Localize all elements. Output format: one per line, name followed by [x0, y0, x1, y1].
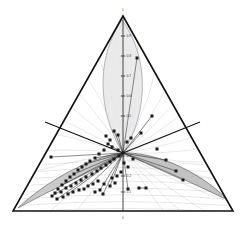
axis-tick-label: 0.7 [126, 74, 131, 78]
data-point[interactable] [65, 187, 68, 190]
data-point[interactable] [182, 179, 185, 182]
data-point[interactable] [109, 161, 112, 164]
data-point[interactable] [151, 115, 154, 118]
data-point[interactable] [117, 134, 120, 137]
data-point[interactable] [113, 130, 116, 133]
data-point[interactable] [60, 191, 63, 194]
data-point[interactable] [98, 153, 101, 156]
data-point[interactable] [145, 187, 148, 190]
data-point[interactable] [92, 183, 95, 186]
data-point[interactable] [130, 137, 133, 140]
data-point[interactable] [72, 191, 75, 194]
data-point[interactable] [85, 163, 88, 166]
data-point[interactable] [118, 155, 121, 158]
data-point[interactable] [80, 179, 83, 182]
data-point[interactable] [69, 176, 72, 179]
data-point[interactable] [109, 139, 112, 142]
data-point[interactable] [127, 166, 130, 169]
data-point[interactable] [111, 146, 114, 149]
data-point[interactable] [54, 192, 57, 195]
axis-top-label: 1 [122, 8, 124, 12]
data-point[interactable] [100, 167, 103, 170]
data-point[interactable] [81, 166, 84, 169]
connector-line [123, 153, 128, 189]
data-point[interactable] [97, 180, 100, 183]
gridline [123, 153, 246, 225]
data-point[interactable] [70, 185, 73, 188]
axis-tick-label: 0.6 [126, 94, 131, 98]
data-point[interactable] [111, 177, 114, 180]
axis-tick-label: 0.2 [126, 174, 131, 178]
data-point[interactable] [67, 193, 70, 196]
data-point[interactable] [120, 171, 123, 174]
data-point[interactable] [96, 170, 99, 173]
data-point[interactable] [113, 158, 116, 161]
data-point[interactable] [99, 189, 102, 192]
data-point[interactable] [83, 188, 86, 191]
data-point[interactable] [73, 173, 76, 176]
data-point[interactable] [103, 183, 106, 186]
data-point[interactable] [123, 162, 126, 165]
data-point[interactable] [61, 184, 64, 187]
data-point[interactable] [102, 193, 105, 196]
data-point[interactable] [78, 189, 81, 192]
data-point[interactable] [126, 141, 129, 144]
data-point[interactable] [140, 132, 143, 135]
data-point[interactable] [85, 176, 88, 179]
gridline [123, 153, 246, 225]
data-point[interactable] [77, 169, 80, 172]
ternary-plot-root: 0.90.80.70.60.50.30.20.110 [0, 0, 246, 225]
data-point[interactable] [57, 188, 60, 191]
data-point[interactable] [94, 191, 97, 194]
data-point[interactable] [65, 180, 68, 183]
ternary-plot-svg: 0.90.80.70.60.50.30.20.110 [0, 0, 246, 225]
gridline [123, 153, 246, 225]
axis-tick-label: 0.8 [126, 54, 131, 58]
data-point[interactable] [62, 196, 65, 199]
data-point[interactable] [175, 170, 178, 173]
data-point[interactable] [117, 149, 120, 152]
data-point[interactable] [91, 173, 94, 176]
data-point[interactable] [138, 187, 141, 190]
data-point[interactable] [136, 57, 139, 60]
data-point[interactable] [103, 149, 106, 152]
data-point[interactable] [105, 135, 108, 138]
axis-bottom-label: 0 [122, 216, 124, 220]
data-point[interactable] [75, 182, 78, 185]
data-point[interactable] [89, 160, 92, 163]
gridline [123, 153, 246, 225]
data-point[interactable] [107, 143, 110, 146]
data-point[interactable] [105, 164, 108, 167]
data-point[interactable] [51, 195, 54, 198]
data-point[interactable] [116, 175, 119, 178]
data-point[interactable] [132, 158, 135, 161]
data-point[interactable] [114, 182, 117, 185]
data-point[interactable] [156, 148, 159, 151]
data-point[interactable] [127, 188, 130, 191]
axis-tick-label: 0.9 [126, 34, 131, 38]
data-point[interactable] [50, 156, 53, 159]
data-point[interactable] [165, 159, 168, 162]
axis-tick-label: 0.1 [126, 190, 131, 194]
data-point[interactable] [109, 185, 112, 188]
data-point[interactable] [87, 185, 90, 188]
data-point[interactable] [94, 157, 97, 160]
data-point[interactable] [122, 152, 125, 155]
data-point[interactable] [56, 198, 59, 201]
